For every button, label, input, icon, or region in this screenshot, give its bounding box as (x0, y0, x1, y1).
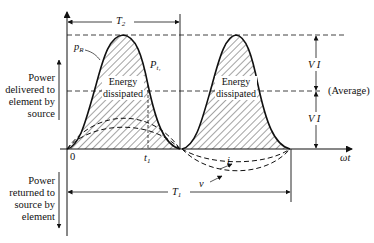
energy-line-2: dissipated (216, 88, 256, 100)
t2-label: T2 (116, 15, 125, 30)
current-label: i (227, 155, 230, 167)
t1-axis-sub: 1 (147, 157, 151, 165)
power-returned-label: Power returned to source by element (0, 175, 55, 223)
delivered-line-4: source (0, 108, 55, 120)
energy-line-1: Energy (103, 76, 143, 88)
voltage-curve-negative (182, 149, 290, 171)
power-delivered-label: Power delivered to element by source (0, 72, 55, 120)
vi-upper-label: V I (308, 59, 320, 71)
returned-line-2: returned to (0, 187, 55, 199)
vi-lower-label: V I (308, 113, 320, 125)
voltage-label: v (199, 178, 204, 190)
returned-line-4: element (0, 211, 55, 223)
origin-label: 0 (70, 151, 75, 163)
t1-sub: 1 (178, 191, 182, 199)
returned-line-1: Power (0, 175, 55, 187)
returned-line-3: source by (0, 199, 55, 211)
energy-dissipated-label-2: Energy dissipated (215, 76, 257, 100)
delivered-line-2: delivered to (0, 84, 55, 96)
t1-axis-label: t1 (144, 152, 150, 167)
delivered-line-1: Power (0, 72, 55, 84)
average-label: (Average) (328, 85, 370, 97)
pr-label: pR (74, 41, 84, 56)
pt1-sub: t₁ (156, 64, 160, 72)
delivered-line-3: element by (0, 96, 55, 108)
current-curve-negative (182, 149, 290, 162)
omega-t-label: ωt (340, 152, 350, 164)
energy-dissipated-label-1: Energy dissipated (102, 76, 144, 100)
pr-sub: R (79, 46, 83, 54)
pt1-label: Pt₁ (150, 59, 161, 74)
energy-line-2: dissipated (103, 88, 143, 100)
t1-period-label: T1 (172, 186, 181, 201)
t2-sub: 2 (122, 20, 126, 28)
energy-line-1: Energy (216, 76, 256, 88)
